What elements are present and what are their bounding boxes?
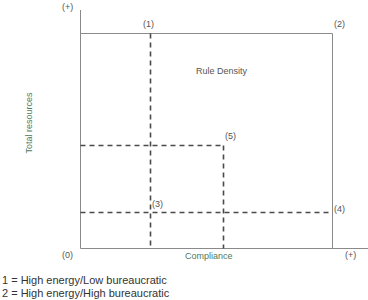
node-label-1: (1) [143, 19, 154, 29]
origin-marker: (0) [62, 250, 73, 260]
legend: 1 = High energy/Low bureaucratic 2 = Hig… [2, 274, 169, 300]
rule-density-label: Rule Density [196, 66, 247, 76]
y-axis-positive-marker: (+) [62, 2, 73, 12]
x-axis-title: Compliance [185, 251, 233, 261]
node-label-4: (4) [334, 204, 345, 214]
y-axis-title: Total resources [24, 68, 34, 178]
legend-entry-2: 2 = High energy/High bureaucratic [2, 287, 169, 300]
node-label-5: (5) [225, 131, 236, 141]
node-label-3: (3) [152, 199, 163, 209]
legend-entry-1: 1 = High energy/Low bureaucratic [2, 274, 169, 287]
x-axis-positive-marker: (+) [345, 250, 356, 260]
node-label-2: (2) [334, 19, 345, 29]
